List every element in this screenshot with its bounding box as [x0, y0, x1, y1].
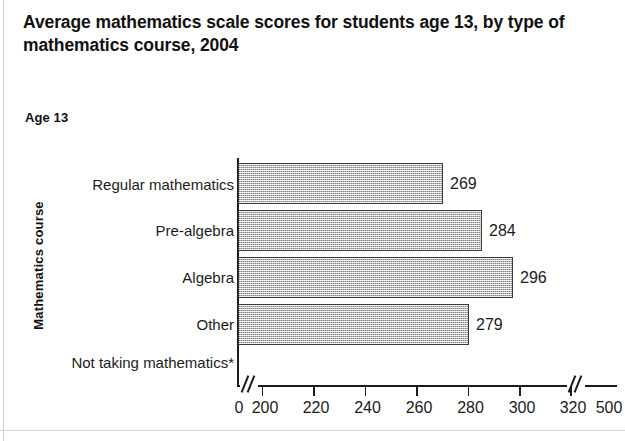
x-axis-tick [416, 387, 418, 396]
x-axis-line [237, 385, 617, 387]
bar-value-label: 279 [476, 316, 503, 334]
x-axis-tick-label: 200 [252, 399, 279, 417]
category-label: Pre-algebra [0, 222, 234, 239]
x-axis-tick [519, 387, 521, 396]
x-axis-tick-label: 320 [560, 399, 587, 417]
x-axis-tick-label: 0 [235, 399, 244, 417]
x-axis-tick-label: 300 [509, 399, 536, 417]
bar-value-label: 269 [450, 175, 477, 193]
x-axis-tick-label: 280 [457, 399, 484, 417]
bar-pre-algebra[interactable] [238, 210, 482, 251]
axis-break-left-icon [241, 375, 257, 393]
category-label: Regular mathematics [0, 176, 234, 193]
bar-other[interactable] [238, 304, 469, 345]
x-axis-tick-label: 260 [406, 399, 433, 417]
x-axis-tick [570, 387, 572, 396]
x-axis-tick [468, 387, 470, 396]
x-axis-tick-label: 240 [354, 399, 381, 417]
category-label: Other [0, 316, 234, 333]
x-axis-tick-label: 500 [596, 399, 623, 417]
bar-regular-mathematics[interactable] [238, 163, 443, 204]
bar-value-label: 284 [489, 222, 516, 240]
category-label: Algebra [0, 269, 234, 286]
x-axis-tick-label: 220 [303, 399, 330, 417]
bar-algebra[interactable] [238, 257, 513, 298]
x-axis-tick [262, 387, 264, 396]
category-label: Not taking mathematics* [0, 354, 234, 371]
bar-chart: Mathematics course 0 200 220 240 260 280… [0, 0, 625, 441]
x-axis-tick [313, 387, 315, 396]
bar-value-label: 296 [520, 269, 547, 287]
x-axis-tick [365, 387, 367, 396]
